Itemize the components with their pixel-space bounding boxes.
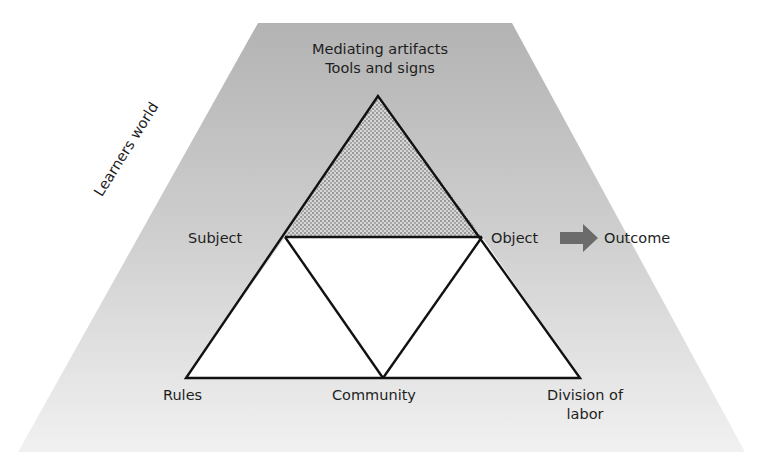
division-of-labor-label-line2: labor xyxy=(530,405,640,423)
tools-and-signs-label: Tools and signs xyxy=(300,59,460,77)
subject-label: Subject xyxy=(188,229,242,247)
community-label: Community xyxy=(332,386,416,404)
activity-theory-diagram: Mediating artifacts Tools and signs Subj… xyxy=(0,0,768,471)
rules-label: Rules xyxy=(163,386,202,404)
mediating-artifacts-label: Mediating artifacts xyxy=(300,40,460,58)
outcome-label: Outcome xyxy=(604,229,670,247)
division-of-labor-label: Division of xyxy=(530,386,640,404)
object-label: Object xyxy=(491,229,538,247)
